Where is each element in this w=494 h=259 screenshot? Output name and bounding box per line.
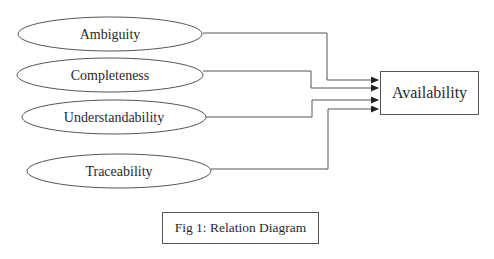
source-node-understandability: Understandability xyxy=(22,100,206,134)
target-label: Availability xyxy=(392,84,467,102)
source-label: Completeness xyxy=(71,68,150,83)
target-node-availability: Availability xyxy=(380,71,479,115)
source-label: Ambiguity xyxy=(80,27,141,42)
source-label: Traceability xyxy=(85,164,152,179)
source-node-completeness: Completeness xyxy=(17,58,203,92)
figure-caption: Fig 1: Relation Diagram xyxy=(162,212,319,244)
source-node-traceability: Traceability xyxy=(27,154,211,188)
edge-traceability-availability xyxy=(211,109,378,169)
caption-text: Fig 1: Relation Diagram xyxy=(175,220,307,236)
source-label: Understandability xyxy=(64,110,164,125)
edge-ambiguity-availability xyxy=(203,33,378,80)
source-node-ambiguity: Ambiguity xyxy=(18,17,202,51)
